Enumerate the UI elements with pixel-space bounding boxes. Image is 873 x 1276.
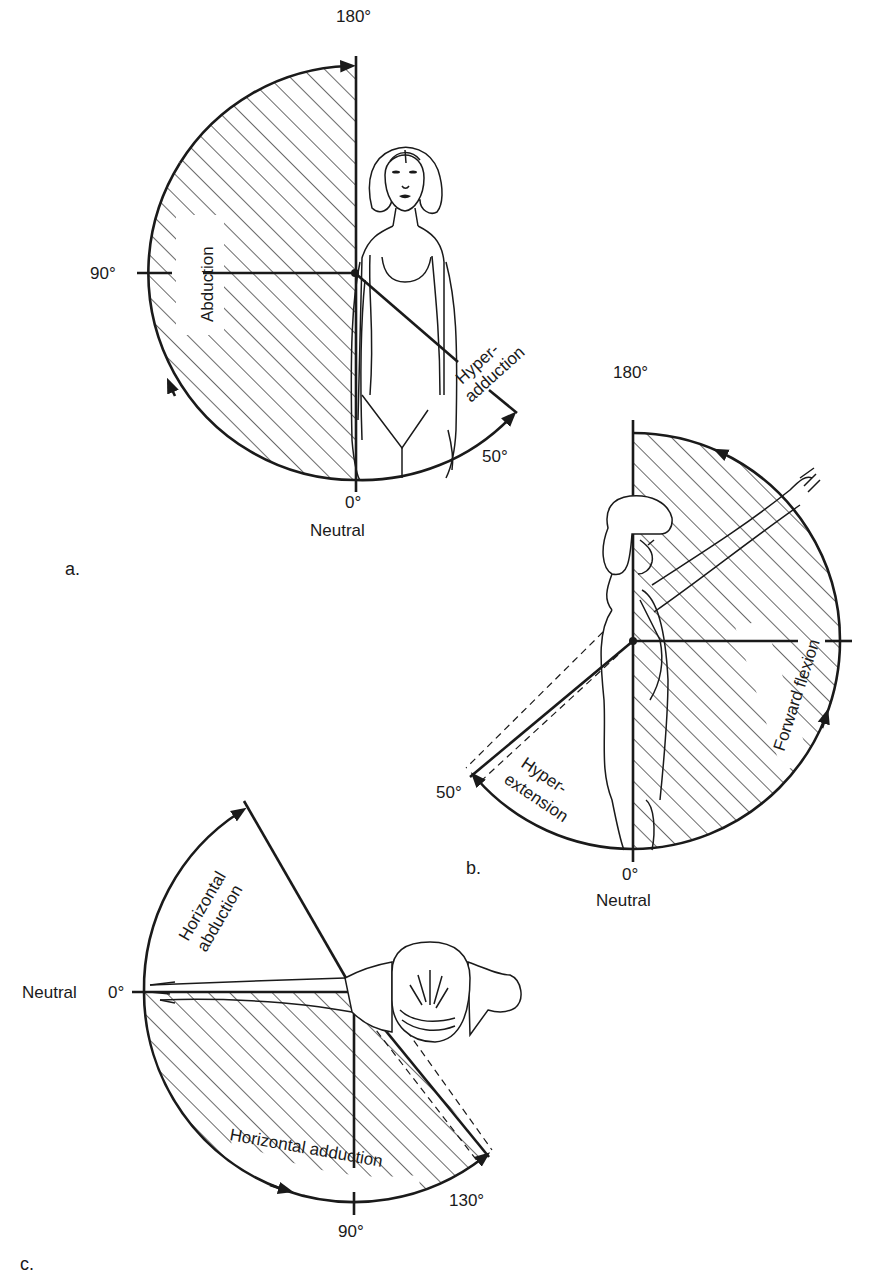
dashed-arm-outline <box>466 632 603 768</box>
panel-a: 180° 90° 0° Neutral 50° Abduction Hyper-… <box>65 7 528 579</box>
hyperadduction-line-end <box>489 390 517 413</box>
dashed-arm-outline <box>480 655 618 782</box>
panel-a-caption: a. <box>65 559 80 579</box>
abduction-arc-arrow-mid <box>170 385 175 396</box>
horizontal-abduction-line <box>244 801 354 992</box>
label-180-deg: 180° <box>336 7 371 26</box>
panel-c: Neutral 0° 90° 130° Horizontal adduction… <box>20 801 521 1274</box>
shoulder-joint-dot <box>629 637 637 645</box>
panel-b: 180° 0° Neutral 50° Forward flexion Hype… <box>436 363 852 910</box>
figure-canvas: 180° 90° 0° Neutral 50° Abduction Hyper-… <box>0 0 873 1276</box>
label-neutral: Neutral <box>596 891 651 910</box>
label-0-deg: 0° <box>108 983 124 1002</box>
label-50-deg: 50° <box>436 783 462 802</box>
range-of-motion-figure: 180° 90° 0° Neutral 50° Abduction Hyper-… <box>0 0 873 1276</box>
hyperextension-line <box>470 641 633 777</box>
label-neutral: Neutral <box>310 521 365 540</box>
label-abduction: Abduction <box>198 246 217 322</box>
label-90-deg: 90° <box>338 1222 364 1241</box>
label-90-deg: 90° <box>90 264 116 283</box>
panel-c-caption: c. <box>20 1254 34 1274</box>
label-50-deg: 50° <box>482 447 508 466</box>
label-180-deg: 180° <box>613 363 648 382</box>
panel-b-caption: b. <box>466 858 481 878</box>
label-neutral: Neutral <box>22 983 77 1002</box>
label-130-deg: 130° <box>449 1191 484 1210</box>
label-0-deg: 0° <box>345 493 361 512</box>
label-0-deg: 0° <box>622 865 638 884</box>
